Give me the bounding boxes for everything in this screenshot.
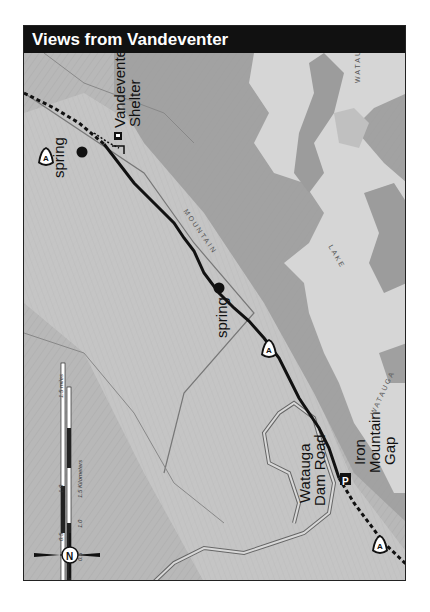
scale-miles-15: 1.5 miles bbox=[53, 374, 69, 398]
spring-dot-center bbox=[214, 283, 225, 294]
scale-km-10: 1.0 bbox=[72, 520, 88, 528]
shelter-label-line2: Shelter bbox=[127, 79, 143, 127]
spring-label-center: spring bbox=[214, 297, 230, 338]
parking-letter: P bbox=[342, 474, 349, 490]
scale-miles-10: 1.0 bbox=[53, 485, 69, 493]
at-letter-south: A bbox=[377, 539, 383, 555]
map-title: Views from Vandeventer bbox=[24, 26, 405, 53]
map-frame: Views from Vandeventer bbox=[23, 25, 406, 581]
spring-dot-north bbox=[77, 147, 88, 158]
road-label-line2: Dam Road bbox=[312, 434, 328, 506]
scale-miles-05: 0.5 bbox=[53, 533, 69, 541]
scale-km-15: 1.5 Kilometers bbox=[72, 460, 88, 498]
at-letter-center: A bbox=[266, 343, 272, 359]
gap-label-line3: Gap bbox=[382, 437, 398, 465]
at-letter-north: A bbox=[43, 151, 49, 167]
spring-label-north: spring bbox=[51, 137, 67, 178]
map-canvas: A A A P N Vandeventer Shelter spring spr… bbox=[24, 53, 405, 581]
scale-km-05: 0.5 bbox=[72, 553, 88, 561]
